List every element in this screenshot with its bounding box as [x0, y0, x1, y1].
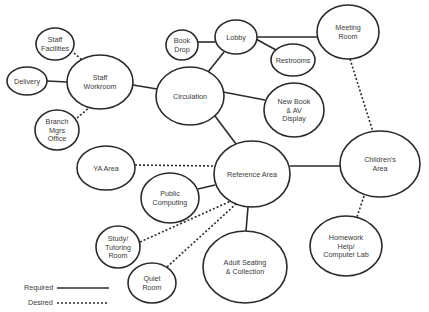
legend-required-label: Required: [24, 283, 53, 292]
node-staff-workroom: StaffWorkroom: [67, 55, 133, 109]
node-meeting-room: MeetingRoom: [317, 5, 379, 59]
edge-meeting-room-to-childrens-area: [350, 59, 373, 132]
node-label: Display: [282, 114, 306, 123]
node-adult-seating-collection: Adult Seating& Collection: [203, 231, 287, 303]
node-label: Workroom: [83, 82, 116, 91]
node-label: Restrooms: [276, 56, 311, 65]
node-public-computing: PublicComputing: [141, 173, 199, 223]
node-label: Facilities: [41, 44, 69, 53]
node-label: Computing: [153, 198, 188, 207]
edge-staff-workroom-to-circulation: [133, 85, 157, 89]
node-label: Reference Area: [227, 170, 277, 179]
edge-ya-area-to-reference-area: [135, 165, 214, 166]
edge-childrens-area-to-homework-help-computer-lab: [357, 196, 364, 217]
edge-staff-facilities-to-staff-workroom: [74, 53, 82, 60]
node-staff-facilities: StaffFacilities: [36, 28, 74, 60]
edge-circulation-to-reference-area: [215, 116, 236, 144]
legend: Required Desired: [24, 283, 109, 307]
adjacency-diagram: StaffFacilitiesDeliveryStaffWorkroomBran…: [0, 0, 429, 312]
nodes-layer: StaffFacilitiesDeliveryStaffWorkroomBran…: [7, 5, 420, 303]
node-reference-area: Reference Area: [214, 141, 290, 207]
node-label: Room: [142, 283, 161, 292]
node-ya-area: YA Area: [77, 146, 135, 190]
node-study-tutoring-room: Study/TutoringRoom: [96, 226, 140, 268]
node-label: Area: [372, 164, 387, 173]
node-lobby: Lobby: [215, 20, 257, 54]
node-label: Delivery: [14, 77, 40, 86]
node-book-drop: BookDrop: [166, 30, 198, 60]
edge-circulation-to-new-book-av-display: [223, 92, 265, 100]
node-label: & Collection: [226, 267, 264, 276]
node-restrooms: Restrooms: [271, 44, 315, 76]
edge-public-computing-to-reference-area: [198, 185, 215, 189]
node-delivery: Delivery: [7, 67, 47, 95]
node-label: Computer Lab: [323, 250, 369, 259]
node-circulation: Circulation: [156, 67, 224, 125]
node-label: Circulation: [173, 92, 207, 101]
legend-desired-label: Desired: [28, 298, 53, 307]
node-label: Drop: [174, 45, 190, 54]
edge-lobby-to-restrooms: [256, 39, 276, 50]
node-homework-help-computer-lab: HomeworkHelp/Computer Lab: [310, 216, 382, 276]
node-label: Room: [338, 32, 357, 41]
edge-delivery-to-staff-workroom: [47, 81, 67, 82]
node-label: YA Area: [93, 164, 118, 173]
edge-branch-mgrs-office-to-staff-workroom: [77, 107, 90, 118]
node-label: Room: [108, 251, 127, 260]
node-branch-mgrs-office: BranchMgrsOffice: [35, 110, 79, 150]
node-label: Lobby: [226, 33, 246, 42]
node-label: Office: [48, 134, 67, 143]
node-quiet-room: QuietRoom: [128, 263, 176, 303]
edge-reference-area-to-adult-seating-collection: [246, 207, 248, 231]
edge-lobby-to-circulation: [208, 52, 224, 72]
node-new-book-av-display: New Book& AVDisplay: [264, 83, 324, 137]
node-childrens-area: Children'sArea: [340, 131, 420, 197]
